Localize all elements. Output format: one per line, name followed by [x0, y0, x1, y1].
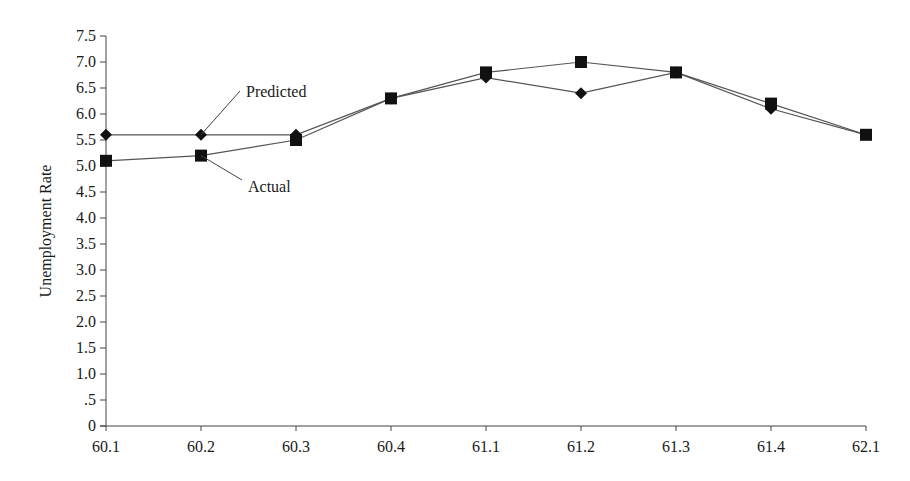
callout-leader-line: [201, 91, 240, 135]
y-tick-label: 3.0: [76, 261, 96, 278]
unemployment-line-chart: 0.51.01.52.02.53.03.54.04.55.05.56.06.57…: [0, 0, 910, 481]
x-tick-label: 61.3: [662, 438, 690, 455]
square-marker: [670, 66, 682, 78]
callout-label: Predicted: [246, 83, 306, 100]
callout-leader-line: [201, 156, 242, 180]
square-marker: [480, 66, 492, 78]
y-tick-label: 2.5: [76, 287, 96, 304]
callout-label: Actual: [248, 178, 291, 195]
series-layer: [100, 56, 872, 167]
y-tick-label: 1.5: [76, 339, 96, 356]
x-tick-label: 60.3: [282, 438, 310, 455]
y-tick-label: 3.5: [76, 235, 96, 252]
y-axis: 0.51.01.52.02.53.03.54.04.55.05.56.06.57…: [76, 27, 106, 434]
y-tick-label: 4.5: [76, 183, 96, 200]
square-marker: [575, 56, 587, 68]
y-tick-label: 1.0: [76, 365, 96, 382]
square-marker: [765, 98, 777, 110]
y-tick-label: 0: [88, 417, 96, 434]
x-tick-label: 60.4: [377, 438, 405, 455]
y-tick-label: 5.0: [76, 157, 96, 174]
y-tick-label: .5: [84, 391, 96, 408]
diamond-marker: [575, 87, 587, 99]
square-marker: [385, 92, 397, 104]
square-marker: [290, 134, 302, 146]
y-tick-label: 5.5: [76, 131, 96, 148]
callout-actual: Actual: [201, 156, 291, 195]
y-tick-label: 6.0: [76, 105, 96, 122]
y-tick-label: 7.0: [76, 53, 96, 70]
x-tick-label: 60.2: [187, 438, 215, 455]
square-marker: [100, 155, 112, 167]
series-actual: [100, 56, 872, 167]
x-tick-label: 60.1: [92, 438, 120, 455]
square-marker: [860, 129, 872, 141]
chart-canvas: 0.51.01.52.02.53.03.54.04.55.05.56.06.57…: [0, 0, 910, 481]
diamond-marker: [100, 129, 112, 141]
y-axis-title: Unemployment Rate: [37, 165, 55, 298]
x-tick-label: 61.2: [567, 438, 595, 455]
x-tick-label: 62.1: [852, 438, 880, 455]
callout-predicted: Predicted: [201, 83, 306, 135]
x-axis: 60.160.260.360.461.161.261.361.462.1: [92, 426, 880, 455]
y-tick-label: 7.5: [76, 27, 96, 44]
x-tick-label: 61.1: [472, 438, 500, 455]
y-tick-label: 2.0: [76, 313, 96, 330]
x-tick-label: 61.4: [757, 438, 785, 455]
y-tick-label: 4.0: [76, 209, 96, 226]
y-tick-label: 6.5: [76, 79, 96, 96]
